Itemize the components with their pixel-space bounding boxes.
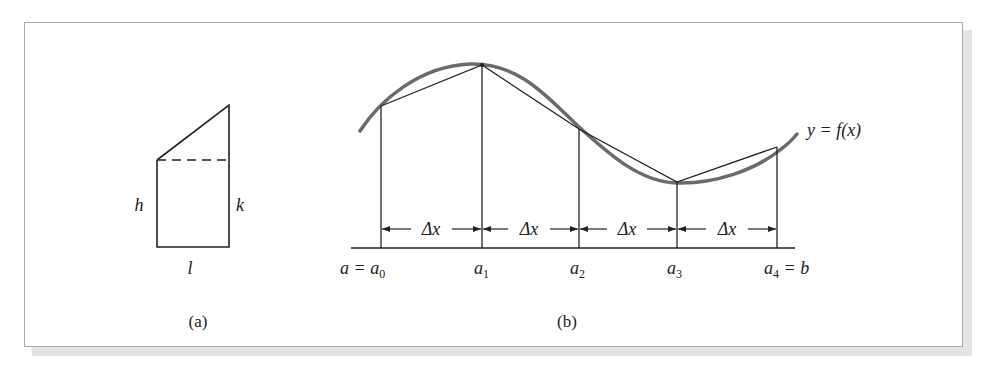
svg-text:a2: a2 bbox=[570, 258, 585, 281]
label-h: h bbox=[135, 195, 144, 215]
delta-x-label-3: Δx bbox=[617, 219, 637, 239]
point-label-a0: a = a0 bbox=[340, 258, 385, 281]
curve-label: y = f(x) bbox=[805, 120, 861, 141]
delta-x-label-4: Δx bbox=[717, 219, 737, 239]
delta-x-label-1: Δx bbox=[421, 219, 441, 239]
svg-text:a3: a3 bbox=[667, 258, 682, 281]
figure-canvas: h k l (a) Δx Δx Δx Δx a = a0 a1 bbox=[0, 0, 989, 371]
point-label-a2: a2 bbox=[570, 258, 585, 281]
svg-text:a = a0: a = a0 bbox=[340, 258, 385, 281]
caption-b: (b) bbox=[557, 312, 577, 331]
point-label-a4: a4 = b bbox=[764, 258, 809, 281]
svg-text:a1: a1 bbox=[474, 258, 489, 281]
point-label-a1: a1 bbox=[474, 258, 489, 281]
svg-text:a4 = b: a4 = b bbox=[764, 258, 809, 281]
delta-x-label-2: Δx bbox=[519, 219, 539, 239]
label-l: l bbox=[187, 258, 192, 278]
panel-a-trapezoid bbox=[157, 105, 229, 247]
caption-a: (a) bbox=[189, 312, 208, 331]
point-label-a3: a3 bbox=[667, 258, 682, 281]
label-k: k bbox=[236, 195, 245, 215]
